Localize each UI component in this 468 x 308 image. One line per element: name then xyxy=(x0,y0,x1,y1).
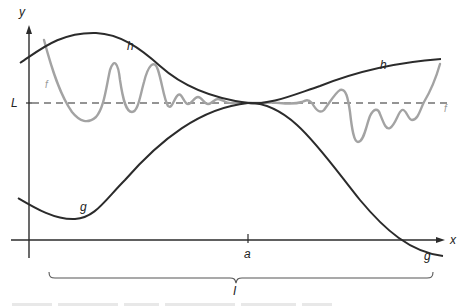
x-axis xyxy=(11,234,445,243)
curve-label-h-left: h xyxy=(127,40,134,52)
y-axis-label: y xyxy=(19,6,25,18)
caption-fragment xyxy=(12,300,352,308)
squeeze-theorem-diagram xyxy=(0,0,468,308)
interval-label-I: I xyxy=(233,285,236,297)
curve-label-f-right: f xyxy=(444,104,447,114)
curve-h xyxy=(20,33,441,103)
curve-f xyxy=(44,40,440,142)
y-axis-arrow-icon xyxy=(26,25,32,34)
curve-label-f-left: f xyxy=(45,80,48,90)
x-axis-arrow-icon xyxy=(436,237,445,243)
point-label-a: a xyxy=(244,248,251,260)
y-axis xyxy=(26,25,32,258)
curve-label-g-left: g xyxy=(80,201,87,213)
curve-label-h-right: h xyxy=(380,59,387,71)
interval-brace xyxy=(49,272,433,283)
limit-label-L: L xyxy=(11,97,18,109)
curve-g xyxy=(18,103,443,256)
curve-label-g-right: g xyxy=(424,250,431,262)
x-axis-label: x xyxy=(450,234,456,246)
